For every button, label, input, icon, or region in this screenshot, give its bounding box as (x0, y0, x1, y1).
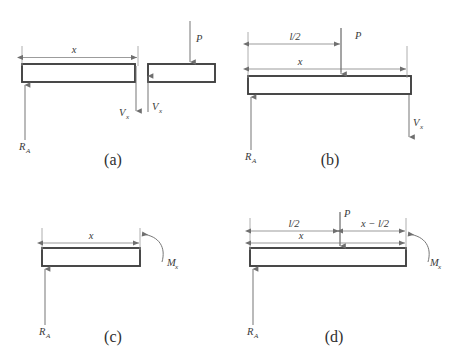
panel-b: l/2 x P R A V x (b) (244, 28, 424, 169)
label-reaction-sub-b: A (251, 157, 257, 165)
label-x-a: x (71, 44, 77, 55)
panel-c: x M x R A (c) (38, 228, 179, 346)
beam-right-segment-a (148, 64, 215, 82)
beam-segment-c (42, 248, 140, 266)
label-reaction-a: R (18, 141, 26, 152)
label-half-length-d: l/2 (288, 218, 300, 229)
beam-segment-d (250, 248, 406, 266)
label-shear-right-sub-a: x (158, 107, 163, 115)
label-shear-sub-b: x (419, 123, 424, 131)
panel-d: l/2 x − l/2 x P M x R A (d) (246, 208, 442, 346)
panel-caption-a: (a) (104, 151, 122, 169)
beam-left-segment-a (22, 64, 135, 82)
beam-segment-b (248, 76, 411, 94)
label-reaction-sub-c: A (45, 332, 51, 340)
label-x-b: x (297, 56, 303, 67)
panel-caption-c: (c) (104, 328, 122, 346)
label-reaction-b: R (244, 151, 252, 162)
label-reaction-d: R (246, 326, 254, 337)
label-reaction-sub-d: A (253, 332, 259, 340)
label-reaction-c: R (38, 326, 46, 337)
panel-a: x R A V x V x P (a) (18, 21, 215, 169)
label-x-d: x (298, 230, 304, 241)
moment-arrow-d (408, 234, 429, 262)
label-x-minus-half-d: x − l/2 (360, 218, 390, 229)
label-half-length-b: l/2 (289, 31, 301, 42)
label-moment-sub-d: x (437, 263, 442, 271)
moment-arrow-c (142, 234, 163, 262)
label-reaction-sub-a: A (25, 147, 31, 155)
panel-caption-d: (d) (325, 328, 344, 346)
label-load-P-d: P (343, 208, 351, 219)
label-load-P-b: P (354, 30, 362, 41)
panel-caption-b: (b) (321, 151, 340, 169)
label-x-c: x (88, 230, 94, 241)
figure-root: x R A V x V x P (a) (0, 0, 458, 354)
free-body-diagram-figure: x R A V x V x P (a) (0, 0, 458, 354)
label-moment-sub-c: x (174, 263, 179, 271)
label-load-P-a: P (195, 33, 203, 44)
label-shear-left-sub-a: x (125, 113, 130, 121)
